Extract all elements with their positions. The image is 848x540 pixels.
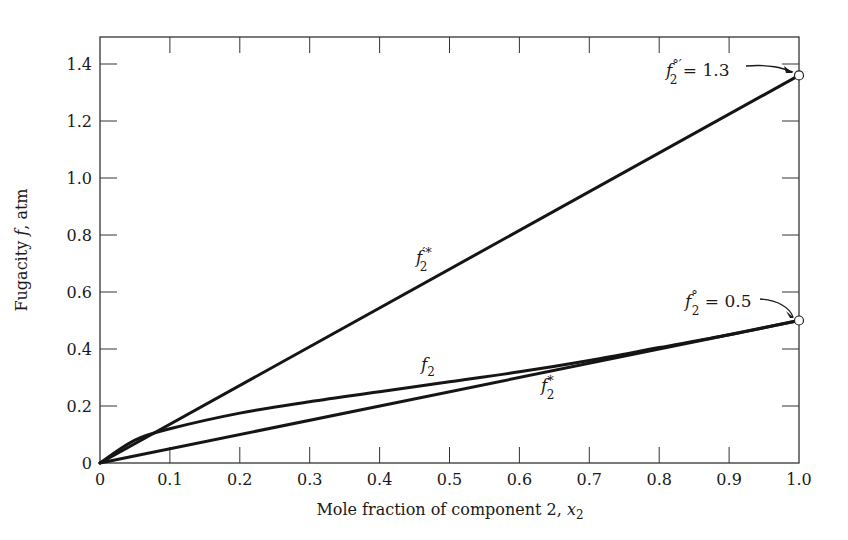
x-tick-label: 0.4 [367, 470, 392, 489]
y-tick-label: 0 [82, 454, 92, 473]
y-tick-label: 0.4 [67, 340, 92, 359]
y-tick-label: 0.2 [67, 397, 92, 416]
x-tick-label: 0.9 [716, 470, 741, 489]
x-tick-label: 0.6 [507, 470, 532, 489]
curve-label-f-star: f*2 [539, 373, 554, 402]
x-tick-label: 0.8 [646, 470, 671, 489]
x-axis-label: Mole fraction of component 2, x2 [316, 500, 583, 522]
x-tick-label: 0 [95, 470, 105, 489]
x-tick-label: 1.0 [786, 470, 811, 489]
plot-frame [100, 37, 799, 463]
annotation-f-deg: f°2 = 0.5 [683, 288, 752, 318]
x-tick-label: 0.1 [157, 470, 182, 489]
x-tick-label: 0.2 [227, 470, 252, 489]
marker-f-deg-prime [795, 71, 804, 80]
y-tick-label: 1.0 [67, 169, 92, 188]
x-tick-label: 0.7 [577, 470, 602, 489]
curve-f-prime-star [100, 75, 799, 463]
x-tick-label: 0.5 [437, 470, 462, 489]
marker-f-deg [795, 316, 804, 325]
annotation-f-deg-prime: f°′2 = 1.3 [664, 57, 729, 87]
curve-label-f-prime-star: f′*2 [414, 245, 432, 274]
y-tick-label: 1.4 [67, 55, 92, 74]
curve-label-f2: f2 [419, 354, 435, 379]
curve-f-star [100, 321, 799, 464]
y-axis-label: Fugacity f, atm [12, 188, 31, 311]
plot-curves [100, 75, 799, 463]
x-tick-label: 0.3 [297, 470, 322, 489]
y-tick-label: 0.6 [67, 283, 92, 302]
fugacity-chart: 00.10.20.30.40.50.60.70.80.91.000.20.40.… [0, 0, 848, 540]
y-tick-label: 0.8 [67, 226, 92, 245]
y-tick-label: 1.2 [67, 112, 92, 131]
